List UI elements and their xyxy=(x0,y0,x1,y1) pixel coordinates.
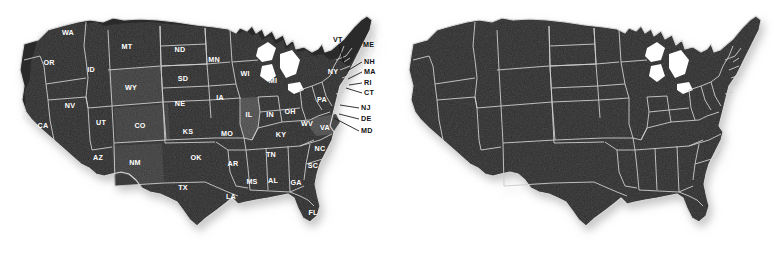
callout-label-DE[interactable]: DE xyxy=(361,114,371,123)
state-label-OK[interactable]: OK xyxy=(190,153,202,162)
state-label-KS[interactable]: KS xyxy=(183,127,193,136)
callout-label-RI[interactable]: RI xyxy=(364,78,372,87)
us-map-labeled-panel[interactable]: WAORIDMTNDMNWIMIWYSDNEIANVUTCOCAKSMOILIN… xyxy=(0,0,389,263)
state-label-AR[interactable]: AR xyxy=(228,159,239,168)
callout-line-RI xyxy=(349,83,362,85)
state-label-SC[interactable]: SC xyxy=(308,161,318,170)
state-label-UT[interactable]: UT xyxy=(96,118,106,127)
state-label-NE[interactable]: NE xyxy=(175,99,185,108)
state-label-WA[interactable]: WA xyxy=(62,28,74,37)
state-label-FL[interactable]: FL xyxy=(308,208,318,217)
state-label-KY[interactable]: KY xyxy=(276,130,286,139)
callout-label-MA[interactable]: MA xyxy=(364,67,376,76)
state-label-IN[interactable]: IN xyxy=(266,110,274,119)
state-label-OH[interactable]: OH xyxy=(284,107,295,116)
state-label-ID[interactable]: ID xyxy=(87,65,95,74)
state-label-WV[interactable]: WV xyxy=(301,119,313,128)
callout-label-VT[interactable]: VT xyxy=(333,35,343,44)
state-label-LA[interactable]: LA xyxy=(226,192,236,201)
callout-label-NH[interactable]: NH xyxy=(364,57,375,66)
state-label-AL[interactable]: AL xyxy=(268,176,278,185)
callout-line-DE xyxy=(339,114,359,119)
map-landmass xyxy=(389,0,778,263)
map-landmass xyxy=(0,0,389,263)
callout-label-ME[interactable]: ME xyxy=(363,40,374,49)
state-label-NV[interactable]: NV xyxy=(65,101,75,110)
state-label-MT[interactable]: MT xyxy=(122,42,133,51)
state-label-NC[interactable]: NC xyxy=(315,144,326,153)
state-label-MN[interactable]: MN xyxy=(208,55,220,64)
state-label-CA[interactable]: CA xyxy=(38,121,49,130)
state-label-PA[interactable]: PA xyxy=(317,95,327,104)
state-label-NM[interactable]: NM xyxy=(129,158,141,167)
state-label-WI[interactable]: WI xyxy=(240,69,249,78)
state-label-MS[interactable]: MS xyxy=(246,177,257,186)
state-label-AZ[interactable]: AZ xyxy=(93,153,103,162)
state-label-TN[interactable]: TN xyxy=(266,150,276,159)
state-label-TX[interactable]: TX xyxy=(178,183,188,192)
state-label-OR[interactable]: OR xyxy=(43,58,55,67)
state-label-IL[interactable]: IL xyxy=(246,110,253,119)
state-label-SD[interactable]: SD xyxy=(178,74,188,83)
page-root: WAORIDMTNDMNWIMIWYSDNEIANVUTCOCAKSMOILIN… xyxy=(0,0,778,263)
callout-label-MD[interactable]: MD xyxy=(361,126,373,135)
state-label-NY[interactable]: NY xyxy=(328,67,338,76)
us-map-blank-svg[interactable] xyxy=(389,0,778,263)
state-label-MO[interactable]: MO xyxy=(221,129,233,138)
callout-line-CT xyxy=(346,88,362,93)
state-label-ND[interactable]: ND xyxy=(175,45,186,54)
state-label-IA[interactable]: IA xyxy=(216,93,224,102)
state-label-MI[interactable]: MI xyxy=(269,76,277,85)
us-map-blank-panel[interactable] xyxy=(389,0,778,263)
callout-label-NJ[interactable]: NJ xyxy=(361,103,371,112)
state-label-WY[interactable]: WY xyxy=(125,83,137,92)
callout-line-NJ xyxy=(340,105,359,108)
state-label-GA[interactable]: GA xyxy=(290,178,301,187)
callout-label-CT[interactable]: CT xyxy=(364,88,374,97)
state-label-CO[interactable]: CO xyxy=(134,121,145,130)
us-map-labeled-svg[interactable]: WAORIDMTNDMNWIMIWYSDNEIANVUTCOCAKSMOILIN… xyxy=(0,0,389,263)
state-label-VA[interactable]: VA xyxy=(320,123,330,132)
